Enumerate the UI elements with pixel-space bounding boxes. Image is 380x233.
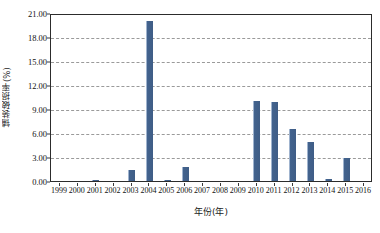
bar [343,158,350,181]
y-axis-tick-label: 21.00 [28,9,47,19]
y-axis-tick-label: 15.00 [28,57,47,67]
y-axis-tick-label: 6.00 [32,129,47,139]
x-axis-tick-label: 2010 [248,186,264,195]
bar [164,180,171,181]
x-axis-tick-label: 2013 [301,186,317,195]
x-axis-tick-label: 2014 [319,186,335,195]
x-axis-tick-label: 2005 [158,186,174,195]
y-axis-title: 铺装破损率(%) [0,0,14,195]
x-axis-tick-label: 2007 [194,186,210,195]
x-axis-title: 年份(年) [50,205,372,218]
y-axis-tick-label: 0.00 [32,177,47,187]
bars-layer [51,15,371,181]
y-axis-tick-label: 3.00 [32,153,47,163]
x-axis-tick-label: 2006 [176,186,192,195]
y-axis-tick-label: 12.00 [28,81,47,91]
bar [289,129,296,181]
x-axis-tick-label: 2016 [355,186,371,195]
x-axis-tick-label: 1999 [51,186,67,195]
x-axis-tick-label: 2003 [123,186,139,195]
y-axis-tick-label: 18.00 [28,33,47,43]
bar-chart: 铺装破损率(%) 0.003.006.009.0012.0015.0018.00… [0,0,380,233]
plot-area [50,14,372,182]
bar [271,102,278,181]
x-axis-tick-label: 2015 [337,186,353,195]
x-axis-tick-label: 2000 [69,186,85,195]
x-axis-tick-labels: 1999200020012002200320042005200620072008… [50,183,372,201]
y-axis-tick-labels: 0.003.006.009.0012.0015.0018.0021.00 [14,0,50,195]
bar [182,167,189,181]
x-axis-tick-label: 2001 [87,186,103,195]
y-axis-tick-label: 9.00 [32,105,47,115]
x-axis-tick-label: 2008 [212,186,228,195]
bar [253,101,260,181]
x-axis-tick-label: 2002 [105,186,121,195]
x-axis-tick-label: 2009 [230,186,246,195]
bar [146,21,153,181]
bar [128,170,135,181]
bar [325,179,332,181]
x-axis-tick-label: 2004 [140,186,156,195]
x-axis-tick-label: 2012 [284,186,300,195]
bar [92,180,99,181]
bar [307,142,314,181]
x-axis-tick-label: 2011 [266,186,282,195]
